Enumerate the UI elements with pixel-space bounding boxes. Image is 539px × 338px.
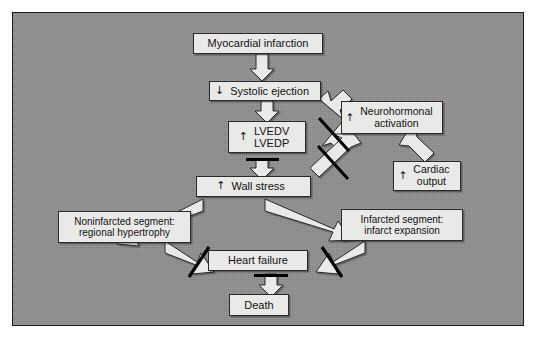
arrow-wall-stress-to-infarcted	[265, 199, 351, 241]
node-label-systolic-ejection: Systolic ejection	[224, 85, 315, 97]
diagram-panel: Myocardial infarction ↓Systolic ejection…	[12, 12, 524, 326]
node-cardiac-output: ↑Cardiac output	[393, 161, 461, 191]
up-arrow-icon-lvedv: ↑	[239, 131, 248, 143]
up-arrow-icon-cardiac-output: ↑	[399, 170, 408, 182]
node-label-cardiac-output: Cardiac output	[407, 164, 455, 188]
node-label-death: Death	[238, 299, 279, 311]
node-label-neurohormonal-activation: Neurohormonal activation	[354, 106, 438, 130]
up-arrow-icon-neurohormonal: ↑	[345, 112, 354, 124]
node-lvedv-lvedp: ↑LVEDV LVEDP	[228, 121, 306, 153]
arrow-mi-to-systolic-ejection	[250, 54, 274, 81]
up-arrow-icon-wall-stress: ↑	[216, 180, 225, 192]
node-noninfarcted-segment: Noninfarcted segment: regional hypertrop…	[58, 211, 191, 243]
figure-canvas: Myocardial infarction ↓Systolic ejection…	[0, 0, 539, 338]
node-label-infarcted-segment: Infarcted segment: infarct expansion	[355, 214, 450, 236]
node-neurohormonal-activation: ↑Neurohormonal activation	[341, 101, 443, 134]
node-death: Death	[229, 294, 289, 316]
node-systolic-ejection: ↓Systolic ejection	[209, 81, 321, 101]
node-label-lvedv-lvedp: LVEDV LVEDP	[248, 125, 295, 150]
node-myocardial-infarction: Myocardial infarction	[193, 33, 323, 54]
arrow-infarcted-to-heart-failure	[316, 241, 365, 274]
node-wall-stress: ↑Wall stress	[196, 176, 311, 197]
arrow-systolic-ejection-to-lvedv	[255, 101, 279, 123]
node-infarcted-segment: Infarcted segment: infarct expansion	[341, 209, 463, 241]
node-label-wall-stress: Wall stress	[225, 180, 290, 192]
node-label-myocardial-infarction: Myocardial infarction	[202, 37, 315, 49]
node-label-noninfarcted-segment: Noninfarcted segment: regional hypertrop…	[68, 216, 181, 238]
node-heart-failure: Heart failure	[208, 250, 308, 271]
arrow-noninfarcted-to-heart-failure	[165, 241, 214, 274]
down-arrow-icon-systolic-ejection: ↓	[215, 85, 224, 97]
node-label-heart-failure: Heart failure	[222, 254, 294, 266]
